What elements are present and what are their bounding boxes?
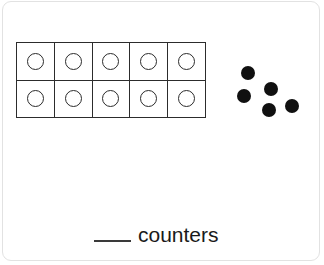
empty-counter-icon [65, 53, 82, 70]
ten-frame-cell[interactable] [130, 81, 168, 119]
filled-counter-icon [241, 66, 255, 80]
total-answer-blank[interactable] [94, 240, 131, 242]
filled-counter-icon [285, 99, 299, 113]
filled-counter-icon [264, 82, 278, 96]
empty-counter-icon [27, 90, 44, 107]
filled-counter-icon [237, 89, 251, 103]
empty-counter-icon [178, 90, 195, 107]
ten-frame-cell[interactable] [55, 43, 93, 81]
ten-frame-cell[interactable] [17, 81, 55, 119]
empty-counter-icon [140, 53, 157, 70]
ten-frame-cell[interactable] [17, 43, 55, 81]
equation-row: + [0, 148, 324, 178]
empty-counter-icon [65, 90, 82, 107]
empty-counter-icon [178, 53, 195, 70]
ten-frame-grid [16, 42, 206, 118]
ten-frame-cell[interactable] [168, 43, 206, 81]
ten-frame-cell[interactable] [93, 81, 131, 119]
loose-counters-group [228, 60, 300, 122]
ten-frame-cell[interactable] [93, 43, 131, 81]
total-row: counters [94, 216, 219, 246]
empty-counter-icon [27, 53, 44, 70]
ten-frame-cell[interactable] [55, 81, 93, 119]
empty-counter-icon [140, 90, 157, 107]
total-label: counters [138, 224, 219, 246]
worksheet-card: + counters [0, 0, 324, 265]
filled-counter-icon [262, 103, 276, 117]
empty-counter-icon [102, 90, 119, 107]
empty-counter-icon [102, 53, 119, 70]
ten-frame-cell[interactable] [130, 43, 168, 81]
ten-frame-cell[interactable] [168, 81, 206, 119]
